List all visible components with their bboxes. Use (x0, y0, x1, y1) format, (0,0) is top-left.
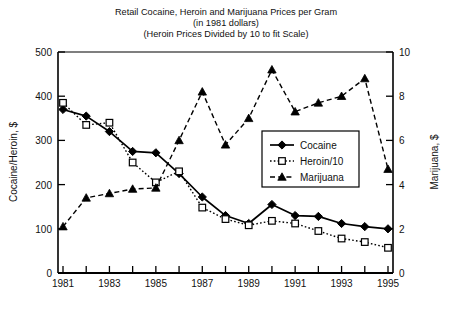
y-tick-label-left: 400 (35, 91, 52, 102)
data-point-marker (385, 245, 392, 252)
data-point-marker (292, 220, 299, 227)
y-tick-label-right: 2 (399, 224, 405, 235)
x-tick-label: 1981 (52, 278, 75, 289)
data-point-marker (279, 158, 286, 165)
y-tick-label-left: 300 (35, 135, 52, 146)
y-tick-label-left: 100 (35, 224, 52, 235)
price-line-chart: Retail Cocaine, Heroin and Marijuana Pri… (0, 0, 453, 312)
y-axis-left-label: Cocaine/Heroin, $ (8, 122, 19, 202)
y-tick-label-left: 200 (35, 180, 52, 191)
data-point-marker (269, 218, 276, 225)
data-point-marker (176, 168, 183, 175)
legend-label: Heroin/10 (300, 156, 344, 167)
data-point-marker (361, 239, 368, 246)
x-tick-label: 1991 (284, 278, 307, 289)
data-point-marker (60, 100, 67, 107)
chart-subtitle: (in 1981 dollars) (193, 18, 259, 28)
x-tick-label: 1995 (377, 278, 400, 289)
legend-label: Marijuana (300, 172, 344, 183)
chart-legend: CocaineHeroin/10Marijuana (262, 131, 359, 187)
y-axis-right-label: Marijuana, $ (429, 134, 440, 189)
y-tick-label-right: 10 (399, 47, 411, 58)
chart-subtitle-2: (Heroin Prices Divided by 10 to fit Scal… (144, 29, 309, 39)
data-point-marker (106, 119, 113, 126)
data-point-marker (129, 159, 136, 166)
data-point-marker (338, 235, 345, 242)
data-point-marker (245, 222, 252, 229)
data-point-marker (222, 216, 229, 223)
y-tick-label-left: 500 (35, 47, 52, 58)
y-tick-label-right: 6 (399, 135, 405, 146)
y-tick-label-right: 8 (399, 91, 405, 102)
x-tick-label: 1989 (238, 278, 261, 289)
data-point-marker (315, 228, 322, 235)
legend-label: Cocaine (300, 140, 337, 151)
y-tick-label-right: 0 (399, 268, 405, 279)
chart-title: Retail Cocaine, Heroin and Marijuana Pri… (115, 7, 337, 17)
x-tick-label: 1993 (330, 278, 353, 289)
chart-container: Retail Cocaine, Heroin and Marijuana Pri… (0, 0, 453, 312)
data-point-marker (83, 122, 90, 129)
data-point-marker (199, 204, 206, 211)
x-tick-label: 1987 (191, 278, 214, 289)
y-tick-label-right: 4 (399, 180, 405, 191)
x-tick-label: 1983 (98, 278, 121, 289)
x-tick-label: 1985 (145, 278, 168, 289)
